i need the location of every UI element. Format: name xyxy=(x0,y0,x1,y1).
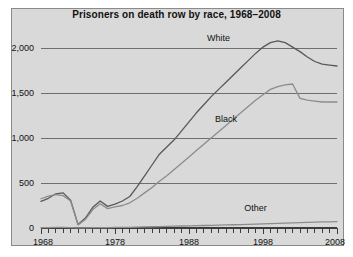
series-line-white xyxy=(41,41,337,225)
line-chart-plot: 05001,0001,5002,00019681978198819982008W… xyxy=(0,0,353,257)
chart-figure: Prisoners on death row by race, 1968–200… xyxy=(0,0,353,257)
y-axis-tick-label: 500 xyxy=(19,178,34,188)
x-axis-tick-label: 1988 xyxy=(179,237,199,247)
x-axis-tick-label: 1998 xyxy=(253,237,273,247)
y-axis-tick-label: 1,000 xyxy=(11,133,34,143)
series-line-other xyxy=(41,222,337,228)
x-axis-tick-label: 1968 xyxy=(33,237,53,247)
y-axis-tick-label: 0 xyxy=(29,223,34,233)
y-axis-tick-label: 2,000 xyxy=(11,43,34,53)
x-axis-tick-label: 1978 xyxy=(105,237,125,247)
series-label-other: Other xyxy=(244,203,267,213)
series-label-white: White xyxy=(207,33,230,43)
series-label-black: Black xyxy=(215,114,238,124)
series-line-black xyxy=(41,84,337,225)
y-axis-tick-label: 1,500 xyxy=(11,88,34,98)
x-axis-tick-label: 2008 xyxy=(325,237,345,247)
